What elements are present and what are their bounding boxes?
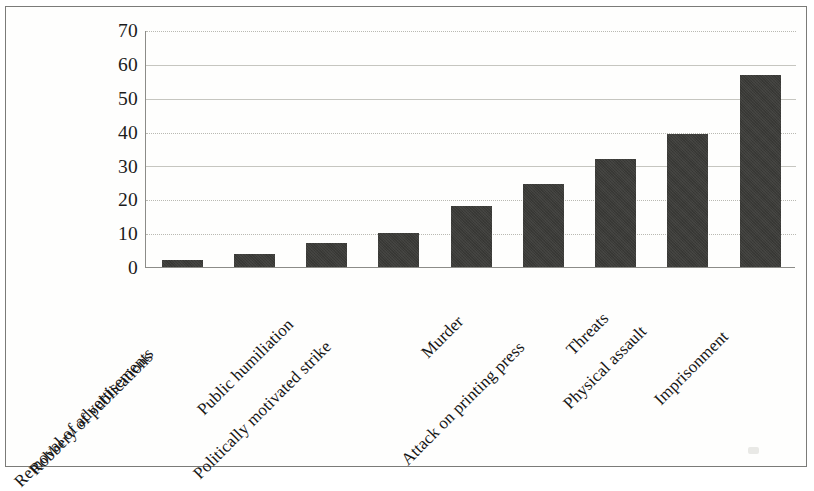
- x-label-attack-on-printing-press: Attack on printing press: [398, 338, 528, 468]
- bar-threats: [595, 159, 636, 267]
- gridline-60: [146, 65, 796, 66]
- x-label-threats: Threats: [563, 309, 612, 358]
- gridline-70: [146, 31, 796, 32]
- x-label-imprisonment: Imprisonment: [651, 328, 731, 408]
- y-tick-label: 20: [96, 190, 138, 210]
- y-tick-label: 30: [96, 157, 138, 177]
- x-label-removal-of-advertisements: Removal of advertisements: [11, 345, 156, 490]
- bar-imprisonment: [740, 75, 781, 267]
- y-tick-label: 10: [96, 224, 138, 244]
- bar-robbery-of-publications: [162, 260, 203, 267]
- plot-area: [145, 31, 795, 268]
- y-tick-label: 50: [96, 89, 138, 109]
- x-label-murder: Murder: [418, 313, 467, 362]
- y-tick-label: 60: [96, 55, 138, 75]
- y-tick-label: 70: [96, 21, 138, 41]
- y-tick-label: 40: [96, 123, 138, 143]
- bar-physical-assault: [667, 134, 708, 267]
- bar-attack-on-printing-press: [523, 184, 564, 267]
- y-tick-label: 0: [96, 258, 138, 278]
- scan-artifact: [748, 447, 759, 454]
- bar-murder: [451, 206, 492, 267]
- bar-public-humiliation: [306, 243, 347, 267]
- bar-removal-of-advertisements: [234, 254, 275, 267]
- bar-politically-motivated-strike: [378, 233, 419, 267]
- gridline-50: [146, 99, 796, 100]
